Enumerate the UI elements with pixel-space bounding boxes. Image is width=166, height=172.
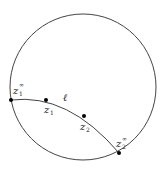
label-z1-infinity: z 1 ∞ bbox=[12, 81, 24, 97]
svg-text:1: 1 bbox=[50, 109, 54, 116]
point-z1-infinity bbox=[9, 98, 13, 102]
svg-text:z: z bbox=[12, 85, 19, 96]
svg-text:z: z bbox=[115, 138, 122, 149]
label-z2-infinity: z 2 ∞ bbox=[115, 135, 127, 150]
svg-text:2: 2 bbox=[122, 143, 126, 150]
point-z1 bbox=[44, 98, 48, 102]
svg-text:2: 2 bbox=[86, 126, 90, 133]
geodesic-line bbox=[11, 99, 119, 153]
point-z2-infinity bbox=[117, 151, 121, 155]
label-ell: ℓ bbox=[63, 92, 67, 103]
diagram-canvas: ℓ z 1 ∞ z 1 z 2 z 2 ∞ bbox=[0, 0, 166, 172]
svg-text:z: z bbox=[43, 104, 50, 115]
svg-text:z: z bbox=[79, 121, 86, 132]
svg-text:1: 1 bbox=[19, 90, 23, 97]
boundary-circle bbox=[10, 14, 156, 160]
label-z1: z 1 bbox=[43, 104, 54, 116]
svg-text:∞: ∞ bbox=[122, 135, 127, 142]
svg-text:∞: ∞ bbox=[19, 81, 24, 88]
point-z2 bbox=[82, 114, 86, 118]
